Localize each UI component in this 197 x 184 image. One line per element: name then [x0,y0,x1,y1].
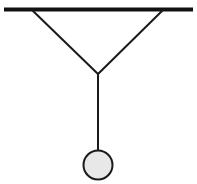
physics-diagram-canvas [0,0,197,184]
suspended-ball [84,151,113,180]
physics-diagram-svg [0,0,197,184]
